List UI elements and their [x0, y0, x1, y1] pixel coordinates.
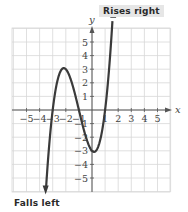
- falls-left-label: Falls left: [14, 198, 60, 208]
- svg-text:2: 2: [82, 77, 88, 88]
- svg-text:x: x: [175, 104, 181, 115]
- polynomial-graph: xy −5−4−3−2−11234554321−1−2−3−4−5: [0, 0, 188, 212]
- svg-text:y: y: [88, 14, 95, 25]
- svg-text:4: 4: [82, 50, 88, 61]
- svg-text:−2: −2: [59, 113, 73, 124]
- svg-text:−5: −5: [19, 113, 33, 124]
- svg-text:−4: −4: [33, 113, 47, 124]
- svg-text:1: 1: [82, 91, 88, 102]
- svg-text:5: 5: [82, 37, 88, 48]
- axes: xy: [12, 14, 181, 192]
- rises-right-label: Rises right: [99, 5, 164, 17]
- svg-text:3: 3: [128, 113, 134, 124]
- svg-text:2: 2: [115, 113, 121, 124]
- svg-text:−3: −3: [74, 145, 88, 156]
- svg-text:−4: −4: [74, 159, 88, 170]
- svg-text:−5: −5: [74, 173, 88, 184]
- svg-text:4: 4: [141, 113, 147, 124]
- svg-text:3: 3: [82, 64, 88, 75]
- svg-text:5: 5: [154, 113, 160, 124]
